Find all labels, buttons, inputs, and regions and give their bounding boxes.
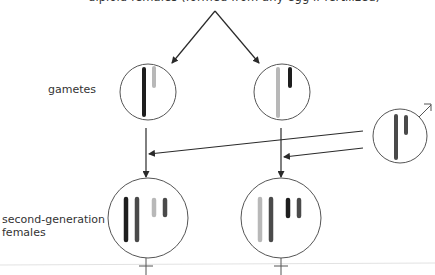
inheritance-diagram (0, 0, 435, 275)
split-arrows (172, 11, 259, 63)
male-contribution-arrows (149, 131, 363, 157)
female-symbol-icon (274, 258, 288, 275)
gamete-right-cell (254, 64, 310, 120)
female-symbol-icon (139, 258, 153, 275)
female-right-cell (241, 178, 321, 275)
horizontal-rule (0, 263, 435, 265)
female-left-cell (108, 178, 188, 275)
male-cell (373, 104, 431, 163)
male-symbol-icon (419, 104, 431, 117)
gamete-left-cell (120, 64, 176, 120)
